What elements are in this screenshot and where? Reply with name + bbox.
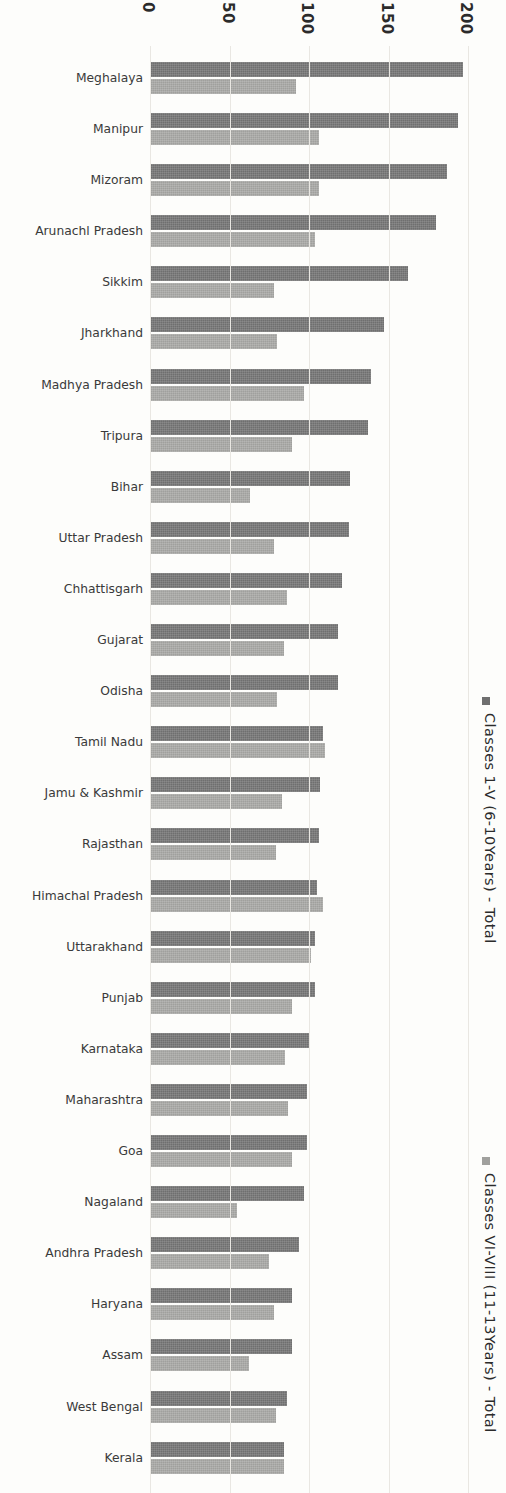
chart-row: Nagaland [0,1177,506,1228]
x-axis-tick-label: 150 [378,2,396,35]
chart-row: Tamil Nadu [0,717,506,768]
category-label: Nagaland [84,1196,143,1208]
chart-row: Andhra Pradesh [0,1228,506,1279]
bar-classes-vi-viii [150,1408,276,1423]
bar-classes-1-v [150,1186,304,1201]
bar-classes-vi-viii [150,181,319,196]
chart-row: Madhya Pradesh [0,359,506,410]
bar-classes-1-v [150,317,384,332]
bar-classes-vi-viii [150,79,296,94]
bar-classes-1-v [150,931,315,946]
category-label: Tamil Nadu [75,736,143,748]
category-label: Madhya Pradesh [41,379,143,391]
chart-row: Jharkhand [0,308,506,359]
chart-row: Arunachl Pradesh [0,206,506,257]
bar-classes-vi-viii [150,488,250,503]
bar-classes-vi-viii [150,1050,285,1065]
chart-row: Uttar Pradesh [0,512,506,563]
bar-classes-vi-viii [150,130,319,145]
x-axis-tick-label: 100 [298,2,316,35]
bar-classes-vi-viii [150,641,284,656]
bar-classes-1-v [150,471,350,486]
chart-row: Maharashtra [0,1074,506,1125]
chart-row: Meghalaya [0,52,506,103]
plot-area: MeghalayaManipurMizoramArunachl PradeshS… [0,46,506,1493]
bar-classes-vi-viii [150,1152,292,1167]
chart-row: Gujarat [0,615,506,666]
bar-classes-1-v [150,369,371,384]
bar-classes-vi-viii [150,692,277,707]
bar-classes-vi-viii [150,1305,274,1320]
category-label: Himachal Pradesh [32,890,143,902]
category-label: Uttar Pradesh [58,532,143,544]
chart-row: Uttarakhand [0,921,506,972]
bar-classes-1-v [150,420,368,435]
category-label: Jharkhand [81,327,143,339]
category-label: Punjab [101,992,143,1004]
bar-classes-1-v [150,1442,284,1457]
category-label: Assam [102,1349,143,1361]
bar-classes-1-v [150,522,349,537]
horizontal-bar-chart: 050100150200 Classes 1-V (6-10Years) - T… [0,0,506,1493]
gridline [389,46,390,1493]
category-label: Rajasthan [82,838,143,850]
x-axis: 050100150200 [0,0,506,50]
bar-classes-vi-viii [150,897,323,912]
bar-classes-1-v [150,982,315,997]
chart-row: Chhattisgarh [0,563,506,614]
category-label: Manipur [93,123,143,135]
chart-row: Odisha [0,666,506,717]
category-label: Haryana [91,1298,143,1310]
bar-classes-1-v [150,1288,292,1303]
bar-classes-vi-viii [150,845,276,860]
chart-row: Kerala [0,1432,506,1483]
chart-row: Assam [0,1330,506,1381]
x-axis-tick-label: 200 [457,2,475,35]
bar-classes-1-v [150,828,319,843]
bar-classes-vi-viii [150,1459,284,1474]
chart-row: Manipur [0,104,506,155]
bar-classes-vi-viii [150,1356,249,1371]
chart-row: Bihar [0,461,506,512]
category-label: Tripura [101,430,143,442]
chart-row: West Bengal [0,1381,506,1432]
category-label: Andhra Pradesh [45,1247,143,1259]
bar-classes-vi-viii [150,283,274,298]
gridline [468,46,469,1493]
bar-classes-vi-viii [150,386,304,401]
bar-classes-vi-viii [150,999,292,1014]
bar-classes-vi-viii [150,539,274,554]
category-label: Maharashtra [65,1094,143,1106]
category-label: Arunachl Pradesh [35,225,143,237]
bar-classes-vi-viii [150,1203,237,1218]
category-label: Meghalaya [76,72,143,84]
bar-classes-1-v [150,113,458,128]
chart-row: Karnataka [0,1023,506,1074]
bar-classes-vi-viii [150,334,277,349]
bar-classes-1-v [150,1391,287,1406]
category-label: Chhattisgarh [64,583,143,595]
chart-row: Himachal Pradesh [0,870,506,921]
category-label: Uttarakhand [66,941,143,953]
category-label: Goa [118,1145,143,1157]
category-label: Kerala [104,1452,143,1464]
chart-row: Rajasthan [0,819,506,870]
category-label: West Bengal [66,1401,143,1413]
bar-classes-vi-viii [150,794,282,809]
x-axis-tick-label: 50 [219,2,237,24]
category-label: Jamu & Kashmir [45,787,143,799]
bar-classes-1-v [150,164,447,179]
bar-classes-1-v [150,726,323,741]
bar-classes-1-v [150,777,320,792]
bar-classes-1-v [150,1339,292,1354]
bar-classes-1-v [150,880,317,895]
bar-classes-vi-viii [150,437,292,452]
bar-classes-vi-viii [150,743,325,758]
bar-classes-vi-viii [150,232,315,247]
bar-classes-1-v [150,573,342,588]
chart-row: Punjab [0,972,506,1023]
bar-classes-vi-viii [150,1101,288,1116]
category-label: Karnataka [81,1043,143,1055]
chart-row: Sikkim [0,257,506,308]
bar-classes-1-v [150,266,408,281]
